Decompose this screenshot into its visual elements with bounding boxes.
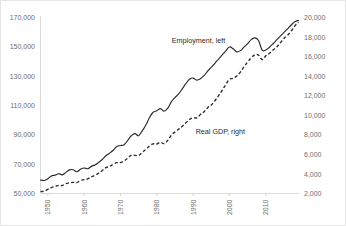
x-axis-tick-label: 1950 (44, 199, 51, 215)
right-axis-tick-labels: 2,0004,0006,0008,00010,00012,00014,00016… (304, 14, 326, 197)
left-axis-tick-label: 130,000 (10, 73, 35, 80)
series-annotation-real-gdp: Real GDP, right (196, 127, 245, 136)
x-axis-tick-label: 1960 (81, 199, 88, 215)
right-axis-tick-label: 12,000 (304, 92, 326, 99)
left-axis-tick-label: 170,000 (10, 14, 35, 21)
x-axis-tick-label: 1980 (153, 199, 160, 215)
left-axis-tick-label: 50,000 (14, 190, 36, 197)
chart-figure: 50,00070,00090,000110,000130,000150,0001… (0, 0, 346, 226)
left-axis-tick-label: 70,000 (14, 161, 36, 168)
series-annotations: Employment, leftReal GDP, right (172, 36, 245, 136)
right-axis-tick-label: 8,000 (304, 131, 322, 138)
right-axis-tick-label: 10,000 (304, 112, 326, 119)
series-line-employment (41, 20, 299, 180)
x-axis-tick-label: 2010 (262, 199, 269, 215)
right-axis-tick-label: 14,000 (304, 73, 326, 80)
left-axis-tick-label: 90,000 (14, 131, 36, 138)
left-axis-tick-label: 150,000 (10, 43, 35, 50)
right-axis-tick-label: 2,000 (304, 190, 322, 197)
right-axis-tick-label: 6,000 (304, 151, 322, 158)
right-axis-tick-label: 18,000 (304, 34, 326, 41)
line-chart: 50,00070,00090,000110,000130,000150,0001… (1, 1, 346, 226)
x-axis-tick-label: 2000 (226, 199, 233, 215)
right-axis-tick-label: 4,000 (304, 171, 322, 178)
x-axis-tick-label: 1970 (117, 199, 124, 215)
left-axis-tick-labels: 50,00070,00090,000110,000130,000150,0001… (10, 14, 35, 197)
left-axis-tick-label: 110,000 (10, 102, 35, 109)
x-axis-tick-labels: 1950196019701980199020002010 (44, 199, 269, 215)
series-paths (41, 20, 299, 191)
series-annotation-employment: Employment, left (172, 36, 226, 45)
right-axis-tick-label: 20,000 (304, 14, 326, 21)
right-axis-tick-label: 16,000 (304, 53, 326, 60)
x-axis-tick-label: 1990 (190, 199, 197, 215)
series-line-real-gdp (41, 22, 299, 191)
